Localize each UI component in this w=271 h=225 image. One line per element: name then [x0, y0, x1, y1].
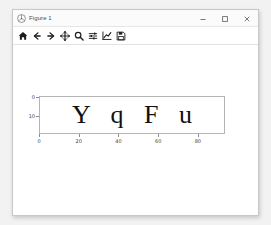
window-controls: [192, 10, 258, 27]
y-tick-label: 10: [29, 113, 35, 119]
x-tick-label: 20: [76, 138, 82, 144]
axes-frame: Y q F u: [39, 96, 225, 134]
floppy-disk-icon: [116, 31, 126, 41]
x-tick: [198, 134, 199, 137]
figure-canvas[interactable]: Y q F u 0 20 40 60 80 0 10: [13, 45, 258, 215]
x-tick: [118, 134, 119, 137]
subplots-button[interactable]: [86, 28, 100, 43]
sliders-icon: [88, 31, 98, 41]
x-tick: [39, 134, 40, 137]
window-title: Figure 1: [29, 14, 52, 22]
move-cross-icon: [60, 31, 70, 41]
magnifier-icon: [74, 31, 84, 41]
figure-window: Figure 1: [12, 9, 259, 216]
y-tick: [36, 116, 39, 117]
matplotlib-logo-icon: [17, 14, 26, 23]
back-button[interactable]: [30, 28, 44, 43]
window-titlebar[interactable]: Figure 1: [13, 10, 258, 27]
line-chart-icon: [102, 31, 112, 41]
zoom-button[interactable]: [72, 28, 86, 43]
matplotlib-toolbar: [13, 27, 258, 45]
home-icon: [18, 31, 28, 41]
x-tick-label: 40: [115, 138, 121, 144]
save-button[interactable]: [114, 28, 128, 43]
x-tick: [158, 134, 159, 137]
arrow-right-icon: [46, 31, 56, 41]
x-tick-label: 80: [195, 138, 201, 144]
x-tick: [79, 134, 80, 137]
axes: Y q F u 0 20 40 60 80 0 10: [39, 96, 225, 134]
pan-button[interactable]: [58, 28, 72, 43]
captcha-image-text: Y q F u: [40, 97, 224, 133]
x-tick-label: 60: [155, 138, 161, 144]
minimize-button[interactable]: [192, 10, 214, 27]
forward-button[interactable]: [44, 28, 58, 43]
x-tick-label: 0: [37, 138, 40, 144]
y-tick-label: 0: [32, 94, 35, 100]
home-button[interactable]: [16, 28, 30, 43]
arrow-left-icon: [32, 31, 42, 41]
maximize-button[interactable]: [214, 10, 236, 27]
y-tick: [36, 97, 39, 98]
customize-button[interactable]: [100, 28, 114, 43]
close-button[interactable]: [236, 10, 258, 27]
